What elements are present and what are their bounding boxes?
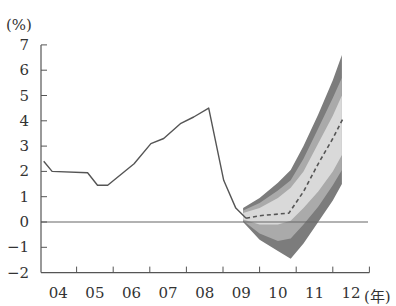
x-tick-label: 08 xyxy=(195,284,214,302)
x-tick-label: 04 xyxy=(49,284,68,302)
y-tick-label: −2 xyxy=(7,264,29,282)
x-tick-label: 05 xyxy=(85,284,104,302)
x-tick-label: 09 xyxy=(232,284,251,302)
y-tick-label: 6 xyxy=(19,61,29,79)
y-tick-label: 0 xyxy=(19,213,29,231)
y-tick-label: −1 xyxy=(7,238,29,256)
chart: 76543210−1−2040506070809101112 (%) (年) xyxy=(0,0,396,306)
x-tick-label: 11 xyxy=(305,284,324,302)
x-tick-label: 07 xyxy=(159,284,178,302)
projection-fan xyxy=(243,55,342,259)
y-tick-label: 1 xyxy=(19,188,29,206)
y-axis-unit: (%) xyxy=(6,16,32,34)
series-actual xyxy=(44,108,246,218)
y-tick-label: 7 xyxy=(19,36,29,54)
x-tick-label: 12 xyxy=(342,284,361,302)
y-tick-label: 2 xyxy=(19,162,29,180)
y-tick-label: 5 xyxy=(19,87,29,105)
x-tick-label: 10 xyxy=(268,284,287,302)
x-tick-label: 06 xyxy=(122,284,141,302)
y-tick-label: 4 xyxy=(19,112,29,130)
x-axis-unit: (年) xyxy=(364,288,391,306)
y-tick-label: 3 xyxy=(19,137,29,155)
